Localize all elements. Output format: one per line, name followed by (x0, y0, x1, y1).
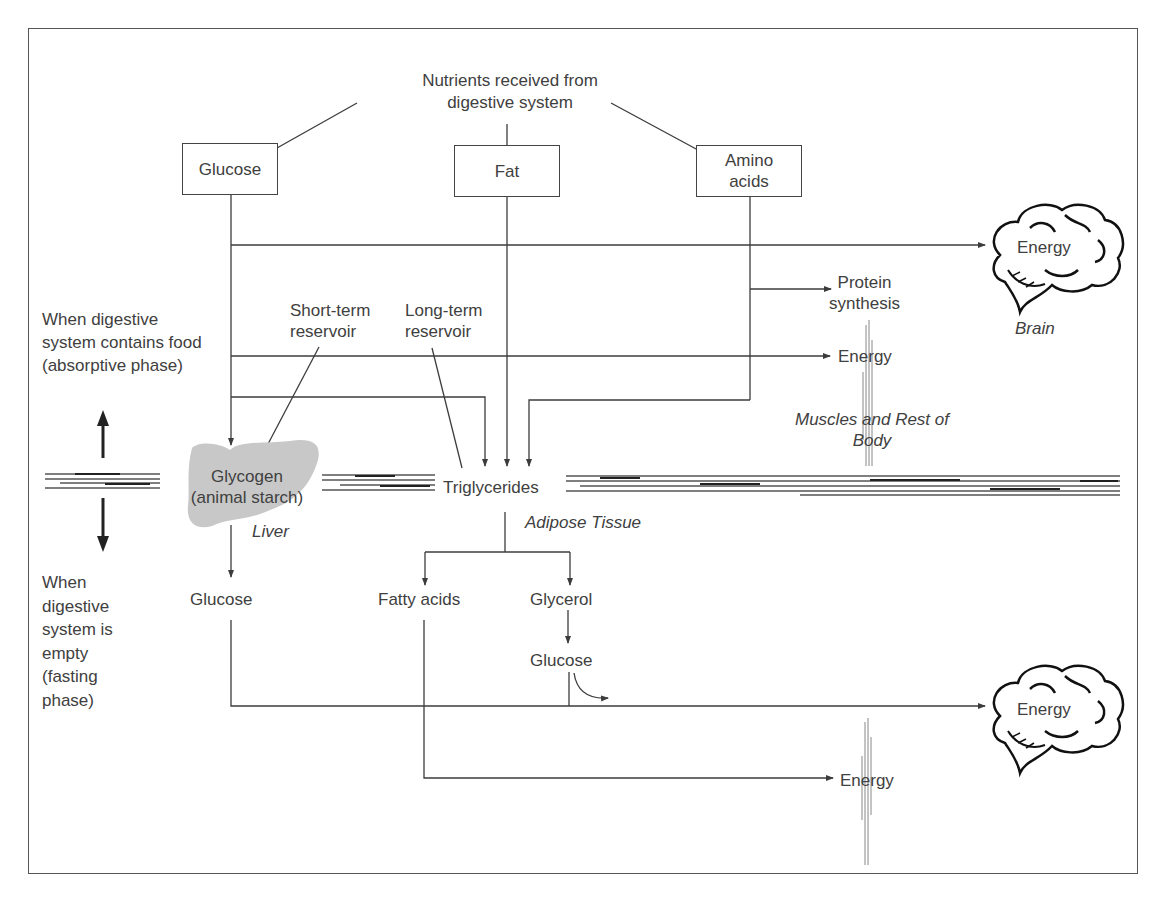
fasting-phase-label: When digestive system is empty (fasting … (42, 571, 142, 712)
fat-box: Fat (454, 145, 560, 197)
muscle-energy-label: Energy (838, 346, 892, 367)
glycerol-glucose-label: Glucose (530, 650, 592, 671)
muscles-rest-of-body-label: Muscles and Rest of Body (782, 409, 962, 451)
long-term-reservoir-label: Long-term reservoir (405, 300, 505, 342)
brain-energy-absorptive: Energy (1015, 238, 1073, 258)
triglycerides-label: Triglycerides (443, 477, 539, 498)
brain-energy-fasting: Energy (1015, 700, 1073, 720)
nutrients-title: Nutrients received from digestive system (400, 70, 620, 114)
brain-icon-top (994, 205, 1123, 312)
amino-acids-label: Amino acids (707, 150, 791, 192)
absorptive-phase-label: When digestive system contains food (abs… (42, 308, 202, 377)
flow-connectors (0, 0, 1163, 905)
liver-label: Liver (252, 521, 289, 542)
fatty-acids-label: Fatty acids (378, 589, 460, 610)
glycerol-label: Glycerol (530, 589, 592, 610)
glycogen-label: Glycogen (animal starch) (182, 466, 312, 508)
glucose-label: Glucose (199, 159, 261, 180)
fat-label: Fat (495, 161, 520, 182)
amino-acids-box: Amino acids (696, 145, 802, 197)
adipose-tissue-label: Adipose Tissue (525, 512, 641, 533)
body-energy-fasting: Energy (840, 770, 894, 791)
short-term-reservoir-label: Short-term reservoir (290, 300, 390, 342)
liver-glucose-label: Glucose (190, 589, 252, 610)
brain-label: Brain (1015, 318, 1055, 339)
protein-synthesis-label: Protein synthesis (822, 272, 907, 314)
glucose-box: Glucose (182, 143, 278, 195)
